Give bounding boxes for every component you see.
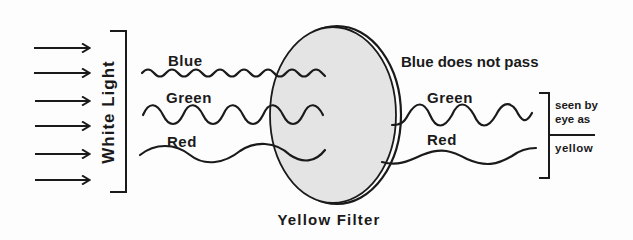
red-label-outgoing: Red [427, 131, 457, 148]
filter-title: Yellow Filter [277, 211, 380, 228]
perception-line-1: seen by [555, 99, 598, 111]
blocked-note: Blue does not pass [401, 53, 539, 70]
green-label-outgoing: Green [427, 89, 473, 106]
red-wave-outgoing [382, 148, 536, 164]
green-label-incoming: Green [166, 89, 212, 106]
perception-result: yellow [555, 142, 593, 154]
green-wave-outgoing [392, 104, 532, 125]
white-light-label: White Light [99, 60, 118, 164]
red-label-incoming: Red [167, 133, 197, 150]
white-light-arrows [34, 48, 89, 180]
diagram-canvas: White Light Blue Green Red Blue does not… [0, 0, 633, 240]
yellow-filter [270, 26, 401, 204]
perception-line-2: eye as [555, 113, 590, 125]
blue-label: Blue [168, 52, 203, 69]
yellow-filter-diagram: White Light Blue Green Red Blue does not… [0, 0, 633, 240]
